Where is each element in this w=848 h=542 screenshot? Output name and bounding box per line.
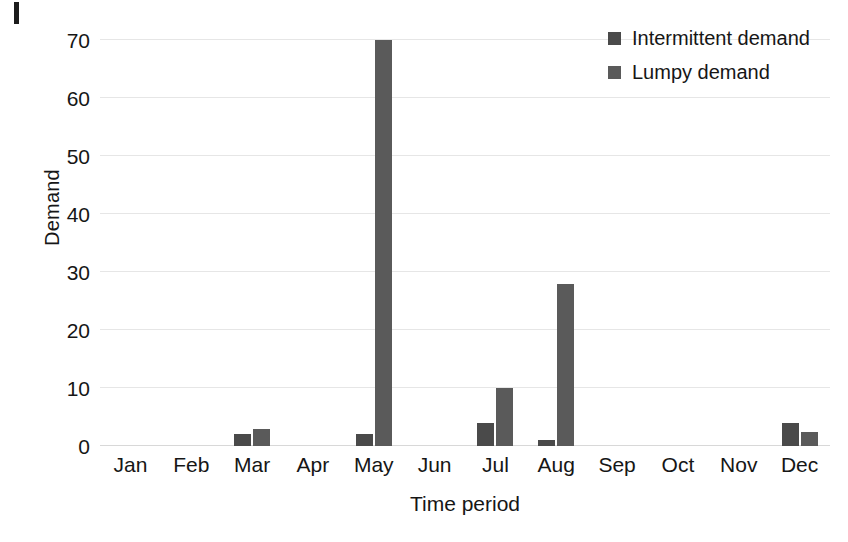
bar <box>477 423 494 446</box>
x-axis-tick-label: May <box>354 452 394 478</box>
bar-group <box>100 40 161 446</box>
x-axis-tick-label: Nov <box>720 452 757 478</box>
bar-group <box>283 40 344 446</box>
x-axis-tick-label: Mar <box>234 452 270 478</box>
bar <box>557 284 574 446</box>
bar-group <box>343 40 404 446</box>
y-axis-tick-labels: 010203040506070 <box>38 0 90 542</box>
x-axis-tick-label: Jun <box>418 452 452 478</box>
bar-group <box>769 40 830 446</box>
plot-area <box>100 40 830 446</box>
y-axis-tick-label: 70 <box>38 30 90 51</box>
bar-group <box>587 40 648 446</box>
y-axis-tick-label: 60 <box>38 88 90 109</box>
legend-swatch-icon <box>608 32 621 45</box>
bar-group <box>222 40 283 446</box>
legend-label: Lumpy demand <box>632 62 770 82</box>
scan-artifact-mark <box>14 2 19 24</box>
x-axis-tick-label: Apr <box>297 452 330 478</box>
bar-group <box>465 40 526 446</box>
bar <box>538 440 555 446</box>
bar-group <box>404 40 465 446</box>
x-axis-tick-label: Jul <box>482 452 509 478</box>
x-axis-tick-labels: JanFebMarAprMayJunJulAugSepOctNovDec <box>100 452 830 484</box>
bar-group <box>526 40 587 446</box>
bar <box>253 429 270 446</box>
bar <box>801 432 818 447</box>
x-axis-title: Time period <box>100 492 830 516</box>
x-axis-tick-label: Feb <box>173 452 209 478</box>
bar-chart: Demand 010203040506070 JanFebMarAprMayJu… <box>0 0 848 542</box>
bar <box>375 40 392 446</box>
legend-label: Intermittent demand <box>632 28 810 48</box>
legend-item[interactable]: Lumpy demand <box>608 62 810 82</box>
bar <box>234 434 251 446</box>
y-axis-tick-label: 30 <box>38 262 90 283</box>
y-axis-tick-label: 40 <box>38 204 90 225</box>
x-axis-tick-label: Aug <box>538 452 575 478</box>
bar <box>496 388 513 446</box>
y-axis-tick-label: 20 <box>38 320 90 341</box>
bar-group <box>161 40 222 446</box>
y-axis-tick-label: 10 <box>38 378 90 399</box>
chart-legend: Intermittent demandLumpy demand <box>608 28 810 96</box>
bar-group <box>708 40 769 446</box>
y-axis-tick-label: 50 <box>38 146 90 167</box>
bar <box>782 423 799 446</box>
bar-group <box>648 40 709 446</box>
legend-item[interactable]: Intermittent demand <box>608 28 810 48</box>
legend-swatch-icon <box>608 66 621 79</box>
x-axis-tick-label: Jan <box>113 452 147 478</box>
x-axis-tick-label: Oct <box>662 452 695 478</box>
x-axis-tick-label: Sep <box>598 452 635 478</box>
x-axis-tick-label: Dec <box>781 452 818 478</box>
bars-layer <box>100 40 830 446</box>
y-axis-tick-label: 0 <box>38 436 90 457</box>
bar <box>356 434 373 446</box>
